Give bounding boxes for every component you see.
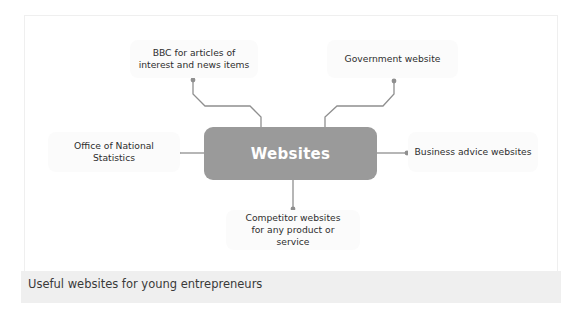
figure-caption: Useful websites for young entrepreneurs — [28, 277, 262, 291]
node-business-advice-label: Business advice websites — [415, 146, 532, 158]
node-business-advice: Business advice websites — [408, 132, 538, 172]
node-government: Government website — [327, 40, 458, 78]
node-bbc: BBC for articles of interest and news it… — [130, 40, 258, 78]
node-competitor: Competitor websites for any product or s… — [226, 210, 360, 250]
node-competitor-label: Competitor websites for any product or s… — [240, 212, 346, 248]
center-node-label: Websites — [251, 145, 331, 163]
center-node-websites: Websites — [204, 127, 377, 180]
node-bbc-label: BBC for articles of interest and news it… — [136, 47, 252, 71]
node-ons-label: Office of National Statistics — [54, 140, 174, 164]
node-government-label: Government website — [345, 53, 441, 65]
node-ons: Office of National Statistics — [48, 132, 180, 172]
